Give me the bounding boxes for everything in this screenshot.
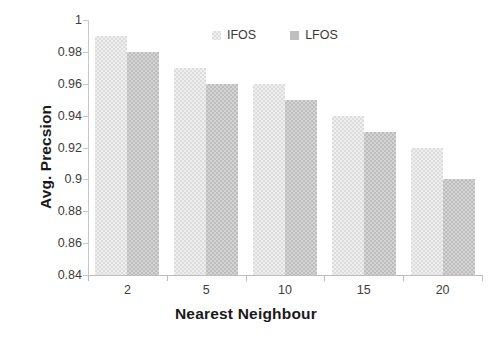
y-axis-tick-label: 0.94 — [36, 109, 82, 123]
y-axis-tick-mark — [83, 211, 88, 212]
y-axis-tick-mark — [83, 243, 88, 244]
x-axis-title: Nearest Neighbour — [0, 305, 492, 323]
bar-lfos-10 — [285, 100, 317, 275]
y-axis-tick-mark — [83, 84, 88, 85]
x-axis-tick-label: 2 — [97, 283, 157, 297]
x-axis-tick-label: 5 — [176, 283, 236, 297]
x-axis-tick-label: 20 — [413, 283, 473, 297]
bar-ifos-10 — [253, 84, 285, 275]
bar-ifos-5 — [174, 68, 206, 275]
legend-label: IFOS — [227, 28, 256, 42]
x-axis-tick-mark — [246, 275, 247, 281]
x-axis-tick-label: 15 — [334, 283, 394, 297]
x-axis-tick-mark — [403, 275, 404, 281]
y-axis-tick-labels: 10.980.960.940.920.90.880.860.84 — [32, 0, 82, 341]
legend-label: LFOS — [305, 28, 338, 42]
legend-entry-ifos[interactable]: IFOS — [212, 28, 256, 42]
y-axis-tick-label: 1 — [36, 13, 82, 27]
y-axis-tick-mark — [83, 20, 88, 21]
y-axis-tick-mark — [83, 148, 88, 149]
bar-ifos-15 — [332, 116, 364, 275]
legend-swatch-icon — [290, 31, 299, 40]
bar-ifos-20 — [411, 148, 443, 276]
y-axis-tick-mark — [83, 179, 88, 180]
chart-legend: IFOSLFOS — [212, 28, 338, 42]
bar-ifos-2 — [95, 36, 127, 275]
x-axis-tick-mark — [324, 275, 325, 281]
legend-swatch-icon — [212, 31, 221, 40]
plot-area — [88, 20, 482, 275]
x-axis-line — [88, 275, 482, 276]
y-axis-tick-label: 0.98 — [36, 45, 82, 59]
y-axis-tick-label: 0.84 — [36, 268, 82, 282]
bar-chart: Avg. Precsion 10.980.960.940.920.90.880.… — [0, 0, 492, 341]
x-axis-tick-mark — [167, 275, 168, 281]
y-axis-tick-mark — [83, 116, 88, 117]
y-axis-tick-label: 0.86 — [36, 236, 82, 250]
y-axis-tick-label: 0.92 — [36, 141, 82, 155]
y-axis-tick-label: 0.9 — [36, 172, 82, 186]
x-axis-tick-mark — [482, 275, 483, 281]
y-axis-tick-mark — [83, 52, 88, 53]
bar-lfos-15 — [364, 132, 396, 275]
bar-lfos-5 — [206, 84, 238, 275]
x-axis-tick-label: 10 — [255, 283, 315, 297]
y-axis-tick-label: 0.88 — [36, 204, 82, 218]
x-axis-tick-mark — [88, 275, 89, 281]
y-axis-line — [88, 20, 89, 276]
bar-lfos-2 — [127, 52, 159, 275]
bar-lfos-20 — [443, 179, 475, 275]
legend-entry-lfos[interactable]: LFOS — [290, 28, 338, 42]
y-axis-tick-label: 0.96 — [36, 77, 82, 91]
